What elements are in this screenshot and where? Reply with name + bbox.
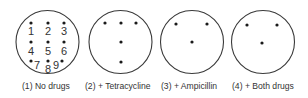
colony-number: 5 (45, 45, 51, 57)
colony-dot (174, 22, 177, 25)
colony-dot (103, 21, 106, 24)
colony-dot (119, 40, 122, 43)
petri-dish-2 (89, 11, 152, 74)
colony-dot (46, 40, 49, 43)
colony-dot (29, 59, 32, 62)
colony-number: 9 (53, 59, 59, 71)
caption-no-drugs: (1) No drugs (22, 81, 70, 91)
colony-number: 7 (34, 59, 40, 71)
caption-ampicillin: (3) + Ampicillin (161, 81, 217, 91)
colony-dot (275, 23, 278, 26)
caption-tetracycline: (2) + Tetracycline (85, 81, 151, 91)
petri-dish-3 (161, 11, 224, 74)
colony-dot (119, 60, 122, 63)
colony-number: 6 (61, 45, 67, 57)
colony-dot (134, 21, 137, 24)
colony-number: 8 (45, 63, 51, 75)
petri-dish-1: 123456789 (16, 11, 79, 76)
colony-number: 1 (28, 25, 34, 37)
colony-dot (245, 23, 248, 26)
caption-both-drugs: (4) + Both drugs (232, 81, 294, 91)
colony-number: 4 (28, 45, 34, 57)
colony-number: 3 (61, 25, 67, 37)
petri-dish-4 (232, 11, 295, 74)
colony-dot (29, 40, 32, 43)
colony-dot (119, 21, 122, 24)
colony-number: 2 (45, 25, 51, 37)
colony-dot (205, 22, 208, 25)
colony-dot (62, 40, 65, 43)
colony-dot (190, 40, 193, 43)
colony-dot (260, 41, 263, 44)
colony-dot (60, 59, 63, 62)
